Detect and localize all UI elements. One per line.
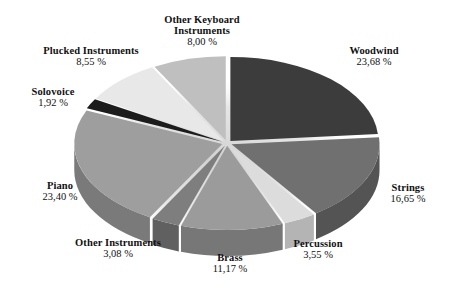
slice-label-percent: 3,55 % [272, 249, 364, 260]
slice-label-name-line1: Other Keyboard [136, 14, 268, 25]
slice-label-name: Brass [192, 252, 268, 263]
slice-label-name: Percussion [272, 238, 364, 249]
slice-label-brass: Brass 11,17 % [192, 252, 268, 274]
slice-label-percent: 23,40 % [22, 191, 98, 202]
slice-label-percent: 3,08 % [52, 248, 184, 259]
slice-label-name-line2: Instruments [136, 25, 268, 36]
slice-label-name: Other Instruments [52, 237, 184, 248]
slice-label-strings: Strings 16,65 % [368, 182, 448, 204]
slice-label-other-keyboard-instruments: Other Keyboard Instruments 8,00 % [136, 14, 268, 47]
slice-label-percent: 11,17 % [192, 263, 268, 274]
slice-label-percent: 16,65 % [368, 193, 448, 204]
slice-label-solovoice: Solovoice 1,92 % [10, 86, 96, 108]
pie-slice-woodwind[interactable]: Woodwind 23,68 % [230, 57, 377, 141]
slice-label-percent: 23,68 % [318, 56, 430, 67]
slice-label-name: Piano [22, 180, 98, 191]
slice-label-percussion: Percussion 3,55 % [272, 238, 364, 260]
slice-label-plucked-instruments: Plucked Instruments 8,55 % [24, 45, 158, 67]
slice-label-name: Plucked Instruments [24, 45, 158, 56]
slice-label-name: Solovoice [10, 86, 96, 97]
slice-label-woodwind: Woodwind 23,68 % [318, 45, 430, 67]
slice-label-piano: Piano 23,40 % [22, 180, 98, 202]
slice-label-name: Strings [368, 182, 448, 193]
slice-label-name: Woodwind [318, 45, 430, 56]
slice-label-percent: 1,92 % [10, 97, 96, 108]
slice-label-other-instruments: Other Instruments 3,08 % [52, 237, 184, 259]
slice-label-percent: 8,55 % [24, 56, 158, 67]
pie-chart-page: Woodwind 23,68 %Strings 16,65 %Percussio… [0, 0, 449, 297]
